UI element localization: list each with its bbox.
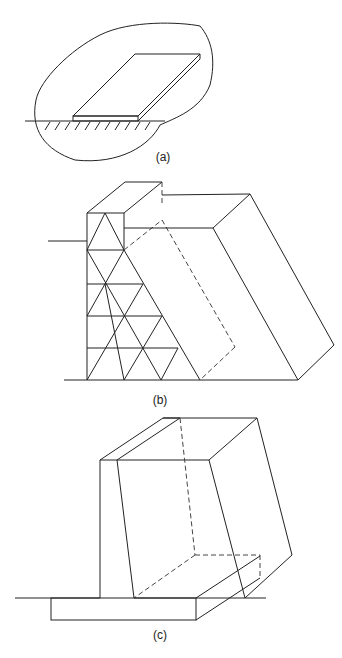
- figure-canvas: [0, 0, 342, 658]
- caption-a: (a): [156, 150, 171, 164]
- panel-b-drawing: [48, 182, 334, 380]
- caption-b: (b): [153, 393, 168, 407]
- caption-c: (c): [153, 628, 167, 642]
- panel-c-drawing: [15, 418, 292, 620]
- panel-a-drawing: [25, 23, 213, 161]
